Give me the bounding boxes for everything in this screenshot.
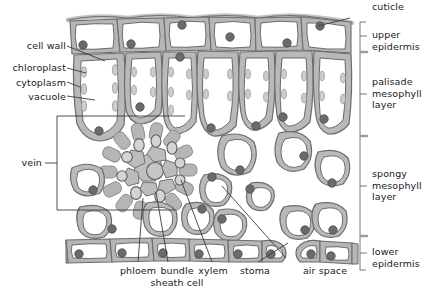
label-upper-epidermis: upper epidermis xyxy=(372,29,420,52)
label-air-space: air space xyxy=(296,265,354,277)
epidermis-cell xyxy=(117,18,166,52)
epidermis-cell xyxy=(70,19,120,54)
lower-epidermis-group xyxy=(66,238,358,264)
spongy-cell xyxy=(275,132,312,172)
epidermis-cell xyxy=(152,238,190,261)
epidermis-cell xyxy=(164,17,211,51)
spongy-cell xyxy=(246,182,275,210)
label-lower-epidermis: lower epidermis xyxy=(372,246,420,269)
spongy-cell xyxy=(315,150,350,187)
leaf-cross-section-diagram: cell wall chloroplast cytoplasm vacuole … xyxy=(0,0,426,295)
spongy-cell xyxy=(214,209,247,241)
epidermis-cell xyxy=(110,238,154,262)
palisade-cell xyxy=(275,51,313,132)
label-stoma: stoma xyxy=(234,265,276,277)
palisade-cell xyxy=(125,52,163,124)
epidermis-cell xyxy=(255,17,303,51)
spongy-cell xyxy=(218,134,257,175)
label-vein: vein xyxy=(0,157,42,169)
epidermis-cell xyxy=(209,17,256,51)
epidermis-cell xyxy=(66,239,112,263)
epidermis-cell xyxy=(301,17,351,53)
label-spongy-mesophyll-layer: spongy mesophyll layer xyxy=(372,168,422,203)
epidermis-cell xyxy=(228,240,262,262)
label-cuticle: cuticle xyxy=(372,1,404,13)
spongy-cell xyxy=(182,202,215,234)
layer-brackets xyxy=(360,22,368,270)
label-cytoplasm: cytoplasm xyxy=(0,77,66,89)
epidermis-cell xyxy=(320,241,352,264)
label-xylem: xylem xyxy=(192,265,234,277)
upper-epidermis-group xyxy=(70,17,351,54)
spongy-cell xyxy=(280,206,315,240)
epidermis-cell xyxy=(189,239,229,262)
spongy-cell xyxy=(143,202,177,236)
palisade-cell xyxy=(162,52,198,134)
label-chloroplast: chloroplast xyxy=(0,62,66,74)
palisade-layer-group xyxy=(73,51,351,141)
label-palisade-mesophyll-layer: palisade mesophyll layer xyxy=(372,76,422,111)
epidermis-cell xyxy=(352,243,358,264)
stoma-guard-cells xyxy=(262,240,320,262)
palisade-cell xyxy=(197,51,239,136)
palisade-cell xyxy=(239,51,275,130)
palisade-cell xyxy=(73,53,125,141)
spongy-cell xyxy=(200,173,232,207)
spongy-cell xyxy=(312,203,347,238)
label-cell-wall: cell wall xyxy=(0,40,66,52)
palisade-cell xyxy=(313,51,351,134)
spongy-cell xyxy=(70,164,104,196)
label-vacuole: vacuole xyxy=(0,91,66,103)
